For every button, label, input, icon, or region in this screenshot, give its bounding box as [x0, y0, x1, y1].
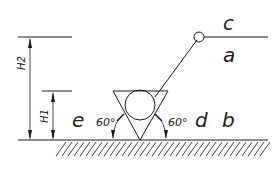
hatch-line — [80, 142, 90, 156]
hatch-line — [260, 142, 270, 156]
hatch-line — [218, 142, 228, 156]
label-a: a — [223, 43, 235, 67]
hatch-line — [74, 142, 84, 156]
hatch-line — [236, 142, 246, 156]
hatch-line — [92, 142, 102, 156]
hatch-line — [230, 142, 240, 156]
hatch-line — [248, 142, 258, 156]
label-c: c — [223, 11, 234, 35]
angle-arc-right — [157, 116, 166, 138]
h2-label: H2 — [16, 56, 27, 70]
hatch-line — [62, 142, 72, 156]
hatch-line — [86, 142, 96, 156]
hatch-line — [152, 142, 162, 156]
hatch-line — [242, 142, 252, 156]
h1-label: H1 — [39, 109, 50, 123]
hatch-line — [188, 142, 198, 156]
hatch-line — [68, 142, 78, 156]
angle-label-right: 60° — [168, 116, 188, 129]
hatch-line — [200, 142, 210, 156]
hatch-line — [104, 142, 114, 156]
angle-label-left: 60° — [96, 116, 116, 129]
h2-arrow-top — [28, 38, 32, 48]
weld-circle — [125, 90, 155, 120]
leader-circle — [194, 32, 204, 42]
hatch-line — [224, 142, 234, 156]
hatch-line — [164, 142, 174, 156]
weld-diagram: H2 H1 c a 60° 60° e d b — [0, 0, 280, 172]
hatch-line — [56, 142, 66, 156]
h1-arrow-top — [51, 92, 55, 102]
ground-hatching — [56, 142, 270, 156]
hatch-line — [206, 142, 216, 156]
angle-arrow-left-top — [117, 114, 124, 121]
angle-arrow-left-bottom — [111, 130, 115, 139]
angle-arrow-right-top — [155, 114, 162, 121]
leader-line — [155, 40, 197, 97]
hatch-line — [176, 142, 186, 156]
inverted-triangle — [113, 91, 168, 140]
angle-arrow-right-bottom — [164, 130, 168, 139]
hatch-line — [98, 142, 108, 156]
hatch-line — [116, 142, 126, 156]
label-e: e — [72, 108, 84, 132]
hatch-line — [128, 142, 138, 156]
h2-arrow-bottom — [28, 130, 32, 140]
hatch-line — [254, 142, 264, 156]
hatch-line — [194, 142, 204, 156]
hatch-line — [158, 142, 168, 156]
label-b: b — [222, 108, 235, 132]
label-d: d — [195, 108, 208, 132]
hatch-line — [170, 142, 180, 156]
hatch-line — [122, 142, 132, 156]
hatch-line — [134, 142, 144, 156]
hatch-line — [146, 142, 156, 156]
h1-arrow-bottom — [51, 130, 55, 140]
hatch-line — [182, 142, 192, 156]
hatch-line — [140, 142, 150, 156]
hatch-line — [110, 142, 120, 156]
hatch-line — [212, 142, 222, 156]
